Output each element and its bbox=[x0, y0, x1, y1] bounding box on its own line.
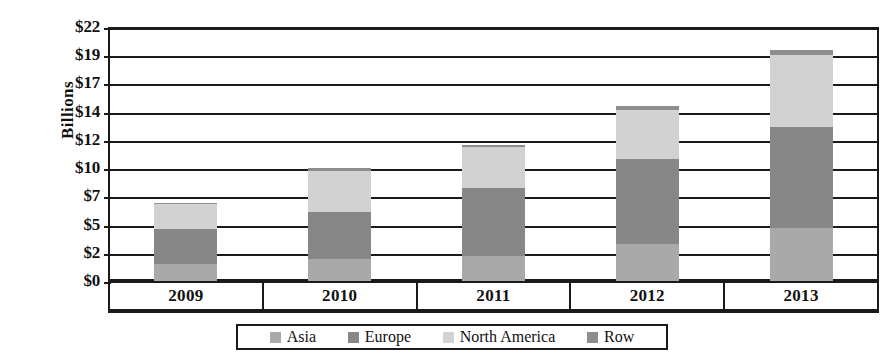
gridline bbox=[110, 254, 877, 256]
x-axis-category-2009: 2009 bbox=[110, 283, 264, 309]
gridline bbox=[110, 28, 877, 30]
legend-swatch-icon bbox=[587, 332, 598, 343]
legend-label: Asia bbox=[287, 328, 316, 346]
y-axis-tick-mark bbox=[104, 141, 111, 143]
y-axis-tick-label: $0 bbox=[83, 271, 100, 291]
y-axis-tick-label: $19 bbox=[75, 45, 100, 65]
gridline bbox=[110, 226, 877, 228]
legend-item-asia[interactable]: Asia bbox=[270, 328, 316, 346]
x-axis-category-2012: 2012 bbox=[571, 283, 725, 309]
gridline bbox=[110, 84, 877, 86]
gridline bbox=[110, 169, 877, 171]
y-axis-tick-label: $7 bbox=[83, 186, 100, 206]
x-axis-category-2013: 2013 bbox=[725, 283, 877, 309]
legend-swatch-icon bbox=[270, 332, 281, 343]
y-axis-tick-labels: $0$2$5$7$10$12$14$17$19$22 bbox=[48, 27, 104, 281]
gridline bbox=[110, 197, 877, 199]
gridline bbox=[110, 141, 877, 143]
y-axis-tick-mark bbox=[104, 56, 111, 58]
x-axis-bottom-rule bbox=[108, 311, 879, 313]
legend-item-europe[interactable]: Europe bbox=[348, 328, 411, 346]
y-axis-tick-mark bbox=[104, 226, 111, 228]
legend-label: North America bbox=[460, 328, 556, 346]
y-axis-tick-mark bbox=[104, 84, 111, 86]
y-axis-tick-mark bbox=[104, 169, 111, 171]
plot-area bbox=[108, 27, 879, 281]
y-axis-tick-mark bbox=[104, 197, 111, 199]
y-axis-tick-mark bbox=[104, 28, 111, 30]
y-axis-tick-label: $14 bbox=[75, 102, 100, 122]
stacked-bar-chart: Billions $0$2$5$7$10$12$14$17$19$22 2009… bbox=[0, 0, 894, 360]
legend-item-north-america[interactable]: North America bbox=[443, 328, 556, 346]
legend-label: Europe bbox=[365, 328, 411, 346]
legend-swatch-icon bbox=[443, 332, 454, 343]
gridline bbox=[110, 56, 877, 58]
gridline bbox=[110, 113, 877, 115]
y-axis-tick-mark bbox=[104, 254, 111, 256]
legend-item-row[interactable]: Row bbox=[587, 328, 634, 346]
y-axis-tick-label: $22 bbox=[75, 17, 100, 37]
legend-swatch-icon bbox=[348, 332, 359, 343]
y-axis-tick-label: $17 bbox=[75, 73, 100, 93]
y-axis-tick-label: $2 bbox=[83, 243, 100, 263]
x-axis-category-2011: 2011 bbox=[418, 283, 572, 309]
x-axis-category-band: 20092010201120122013 bbox=[108, 281, 879, 311]
y-axis-tick-label: $12 bbox=[75, 130, 100, 150]
y-axis-tick-label: $10 bbox=[75, 158, 100, 178]
chart-legend: AsiaEuropeNorth AmericaRow bbox=[236, 324, 668, 350]
x-axis-category-2010: 2010 bbox=[264, 283, 418, 309]
legend-label: Row bbox=[604, 328, 634, 346]
y-axis-tick-mark bbox=[104, 113, 111, 115]
y-axis-tick-label: $5 bbox=[83, 215, 100, 235]
